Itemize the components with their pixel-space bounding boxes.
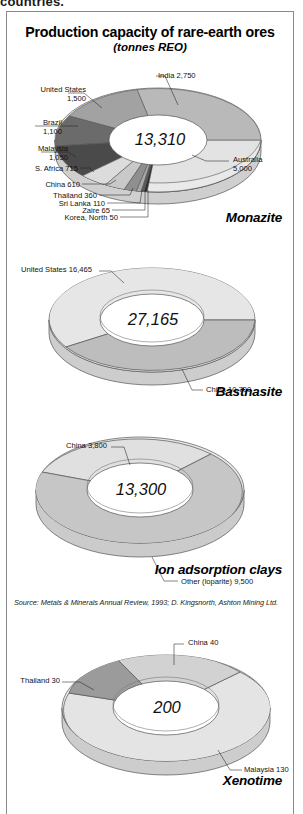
- ore-name-bastnasite: Bastnasite: [216, 384, 282, 399]
- chart-bastnasite: United States 16,465 China 10,700 27,165…: [6, 247, 294, 415]
- chart-subtitle: (tonnes REO): [6, 41, 294, 53]
- monazite-center-total: 13,310: [115, 130, 205, 149]
- chart-xenotime: China 40 Thailand 30 Malaysia 130 200 Xe…: [6, 630, 294, 814]
- xenotime-label-thailand: Thailand 30: [8, 676, 60, 685]
- ore-name-monazite: Monazite: [226, 210, 282, 225]
- monazite-label-india: India 2,750: [158, 71, 196, 80]
- ore-name-ion-adsorption-clays: Ion adsorption clays: [155, 562, 282, 577]
- xenotime-center-total: 200: [122, 698, 212, 717]
- clays-label-china: China 3,800: [66, 441, 107, 450]
- bastnasite-label-united-states: United States 16,465: [21, 265, 92, 274]
- figure-title-block: Production capacity of rare-earth ores (…: [6, 24, 294, 53]
- xenotime-label-china: China 40: [188, 638, 218, 647]
- monazite-label-malaysia: Malaysia 1,050: [8, 144, 68, 163]
- page-title: Production capacity of rare-earth ores: [6, 24, 294, 40]
- chart-monazite: United States 1,500 India 2,750 Brazil 1…: [6, 60, 294, 242]
- monazite-label-brazil: Brazil 1,100: [8, 118, 62, 137]
- monazite-label-china: China 610: [8, 180, 80, 189]
- monazite-label-s-africa: S. Africa 715: [8, 164, 78, 173]
- chart-ion-adsorption-clays: China 3,800 Other (loparite) 9,500 13,30…: [6, 415, 294, 587]
- bastnasite-center-total: 27,165: [107, 310, 199, 329]
- clays-label-other-loparite: Other (loparite) 9,500: [181, 577, 253, 586]
- monazite-label-australia: Australia 5,000: [233, 155, 263, 174]
- ore-name-xenotime: Xenotime: [223, 773, 282, 788]
- clays-center-total: 13,300: [95, 480, 187, 499]
- monazite-label-korea-north: Korea, North 50: [8, 213, 118, 222]
- monazite-label-united-states: United States 1,500: [8, 85, 86, 104]
- cut-off-body-text: countries.: [0, 0, 303, 6]
- source-note: Source: Metals & Minerals Annual Review,…: [14, 598, 289, 607]
